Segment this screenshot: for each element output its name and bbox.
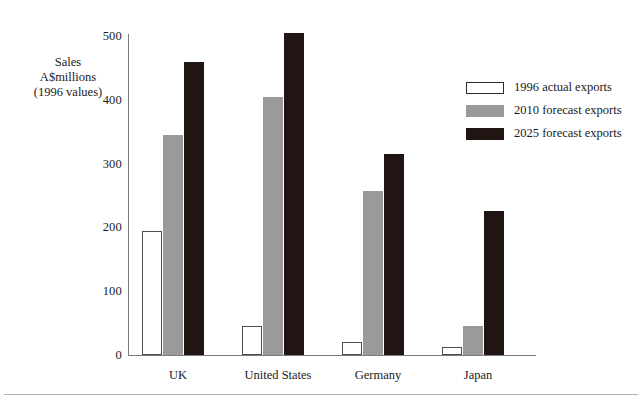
y-axis-tick-label: 0 bbox=[116, 348, 122, 363]
chart-legend: 1996 actual exports2010 forecast exports… bbox=[466, 78, 622, 147]
bar bbox=[363, 191, 383, 355]
x-axis-tick-label: Japan bbox=[428, 368, 528, 383]
bar bbox=[142, 231, 162, 355]
y-axis-tick-label: 500 bbox=[103, 29, 122, 44]
legend-item: 2010 forecast exports bbox=[466, 101, 622, 120]
legend-item: 2025 forecast exports bbox=[466, 124, 622, 143]
legend-item-label: 2010 forecast exports bbox=[514, 103, 622, 118]
x-axis-tick-label: UK bbox=[128, 368, 228, 383]
y-axis-tick-label: 300 bbox=[103, 156, 122, 171]
legend-item: 1996 actual exports bbox=[466, 78, 622, 97]
y-axis-tick-labels: 0100200300400500 bbox=[82, 0, 122, 407]
black-swatch bbox=[466, 128, 504, 140]
legend-item-label: 2025 forecast exports bbox=[514, 126, 622, 141]
y-axis-tick-label: 200 bbox=[103, 220, 122, 235]
bar bbox=[384, 154, 404, 355]
bar bbox=[342, 342, 362, 355]
bar-group bbox=[142, 36, 204, 355]
legend-item-label: 1996 actual exports bbox=[514, 80, 612, 95]
bar-group bbox=[242, 36, 304, 355]
bar-group bbox=[342, 36, 404, 355]
x-axis-line bbox=[128, 355, 536, 356]
bar bbox=[484, 211, 504, 355]
bar bbox=[242, 326, 262, 355]
x-axis-tick-label: Germany bbox=[328, 368, 428, 383]
x-axis-tick-label: United States bbox=[228, 368, 328, 383]
gray-swatch bbox=[466, 105, 504, 117]
bar bbox=[284, 33, 304, 355]
bar bbox=[463, 326, 483, 355]
bar bbox=[163, 135, 183, 355]
bar bbox=[442, 347, 462, 355]
y-axis-tick-label: 100 bbox=[103, 284, 122, 299]
footer-divider bbox=[4, 394, 638, 395]
bar-chart-figure: Sales A$millions (1996 values) 010020030… bbox=[0, 0, 642, 407]
bar bbox=[263, 97, 283, 355]
white-swatch bbox=[466, 82, 504, 94]
y-axis-tick-label: 400 bbox=[103, 92, 122, 107]
bar bbox=[184, 62, 204, 355]
